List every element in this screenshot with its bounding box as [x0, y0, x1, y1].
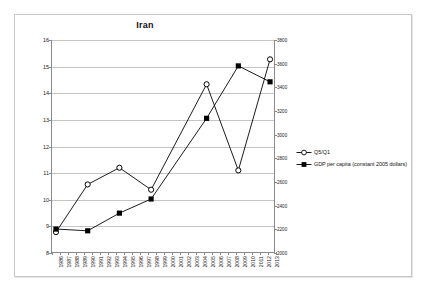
data-point-marker [85, 182, 90, 187]
data-point-marker [267, 57, 272, 62]
y-axis-left-tick-label: 14 [27, 90, 49, 96]
x-axis-tick-label: 1999 [162, 256, 168, 268]
chart-title: Iran [15, 20, 275, 30]
y-axis-left-tick-label: 12 [27, 144, 49, 150]
x-axis-tick-mark [116, 252, 117, 255]
x-axis-tick-mark [172, 252, 173, 255]
x-axis-tick-mark [164, 252, 165, 255]
x-axis-tick-mark [196, 252, 197, 255]
chart-frame: Iran 8910111213141516 200022002400260028… [14, 14, 412, 277]
x-axis-tick-mark [220, 252, 221, 255]
x-axis-tick-label: 1996 [138, 256, 144, 268]
y-axis-left-tick-label: 8 [27, 250, 49, 256]
data-point-marker [85, 228, 90, 233]
x-axis-tick-label: 1993 [114, 256, 120, 268]
x-axis-tick-mark [260, 252, 261, 255]
y-axis-right-tick-label: 3200 [277, 109, 299, 114]
x-axis-tick-mark [212, 252, 213, 255]
x-axis-tick-label: 1995 [130, 256, 136, 268]
x-axis-tick-mark [148, 252, 149, 255]
x-axis-tick-mark [188, 252, 189, 255]
y-axis-right-tick-label: 2000 [277, 251, 299, 256]
y-axis-left-tick-label: 13 [27, 117, 49, 123]
y-axis-left-tick-label: 15 [27, 64, 49, 70]
x-axis-tick-mark [236, 252, 237, 255]
x-axis-tick-mark [68, 252, 69, 255]
x-axis-tick-label: 2009 [242, 256, 248, 268]
data-point-marker [236, 63, 241, 68]
x-axis-tick-label: 2008 [234, 256, 240, 268]
chart-screenshot: Iran 8910111213141516 200022002400260028… [0, 0, 425, 290]
y-axis-right-tick-label: 3400 [277, 85, 299, 90]
x-axis-tick-mark [132, 252, 133, 255]
y-axis-right-tick-label: 2600 [277, 180, 299, 185]
series-1 [53, 57, 272, 235]
legend-label: GDP per capita (constant 2005 dollars) [314, 161, 407, 168]
x-axis-tick-mark [92, 252, 93, 255]
series-layer [52, 40, 274, 252]
data-point-marker [149, 187, 154, 192]
legend-item: Q5/Q1 [296, 149, 407, 156]
data-point-marker [204, 82, 209, 87]
x-axis-tick-mark [108, 252, 109, 255]
x-axis-tick-label: 1994 [122, 256, 128, 268]
x-axis-tick-label: 2007 [226, 256, 232, 268]
x-axis-tick-mark [204, 252, 205, 255]
data-point-marker [117, 165, 122, 170]
data-point-marker [53, 226, 58, 231]
x-axis-tick-mark [60, 252, 61, 255]
x-axis-tick-label: 2001 [178, 256, 184, 268]
x-axis-tick-mark [228, 252, 229, 255]
y-axis-left-tick-label: 10 [27, 197, 49, 203]
x-axis-tick-label: 2005 [210, 256, 216, 268]
x-axis-tick-label: 2012 [266, 256, 272, 268]
x-axis-tick-label: 1989 [82, 256, 88, 268]
x-axis-tick-label: 1998 [154, 256, 160, 268]
data-point-marker [267, 79, 272, 84]
data-point-marker [236, 168, 241, 173]
x-axis-tick-mark [76, 252, 77, 255]
plot-area: 8910111213141516 20002200240026002800300… [51, 40, 275, 253]
data-point-marker [117, 211, 122, 216]
legend-item: GDP per capita (constant 2005 dollars) [296, 161, 407, 168]
x-axis-tick-label: 1990 [90, 256, 96, 268]
x-axis-tick-mark [84, 252, 85, 255]
x-axis-tick-mark [52, 252, 53, 255]
y-axis-left-tick-label: 11 [27, 170, 49, 176]
x-axis-tick-label: 2006 [218, 256, 224, 268]
series-line [56, 66, 270, 231]
x-axis-tick-label: 2004 [202, 256, 208, 268]
filled-square-icon [296, 161, 312, 168]
y-axis-right-tick-label: 3000 [277, 132, 299, 137]
x-axis-tick-mark [268, 252, 269, 255]
legend-label: Q5/Q1 [314, 149, 330, 156]
x-axis-tick-mark [124, 252, 125, 255]
x-axis-tick-label: 1988 [74, 256, 80, 268]
y-axis-left-tick-label: 9 [27, 223, 49, 229]
x-axis-tick-label: 2013 [274, 256, 280, 268]
x-axis-tick-label: 2002 [186, 256, 192, 268]
y-axis-right-tick-label: 3600 [277, 61, 299, 66]
x-axis-tick-label: 1997 [146, 256, 152, 268]
y-axis-right-tick-label: 3800 [277, 38, 299, 43]
x-axis-tick-label: 1986 [58, 256, 64, 268]
chart-legend: Q5/Q1GDP per capita (constant 2005 dolla… [296, 149, 407, 173]
data-point-marker [149, 196, 154, 201]
series-line [56, 59, 270, 232]
x-axis-tick-label: 2003 [194, 256, 200, 268]
data-point-marker [204, 116, 209, 121]
x-axis-tick-label: 2011 [258, 256, 264, 267]
y-axis-right-tick-label: 2200 [277, 227, 299, 232]
x-axis-tick-mark [156, 252, 157, 255]
x-axis-tick-mark [276, 252, 277, 255]
x-axis-tick-label: 2000 [170, 256, 176, 268]
x-axis-tick-mark [180, 252, 181, 255]
y-axis-right-tick-label: 2400 [277, 203, 299, 208]
x-axis-tick-mark [252, 252, 253, 255]
y-axis-left-tick-label: 16 [27, 37, 49, 43]
open-circle-icon [296, 149, 312, 156]
x-axis-tick-mark [140, 252, 141, 255]
x-axis-tick-mark [244, 252, 245, 255]
x-axis-tick-label: 1992 [106, 256, 112, 268]
x-axis-tick-label: 2010 [250, 256, 256, 268]
